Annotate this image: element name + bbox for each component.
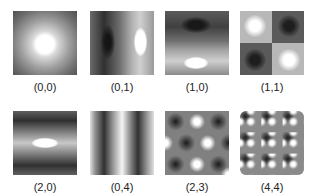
panel-label: (2,3) (165, 181, 229, 193)
mode-image-0-4 (90, 111, 154, 175)
panel-0-0: (0,0) (13, 11, 77, 93)
panel-1-1: (1,1) (240, 11, 304, 93)
panel-0-1: (0,1) (90, 11, 154, 93)
panel-label: (1,0) (165, 81, 229, 93)
mode-image-1-1 (240, 11, 304, 75)
panel-label: (1,1) (240, 81, 304, 93)
mode-image-2-0 (13, 111, 77, 175)
panel-2-3: (2,3) (165, 111, 229, 193)
panel-label: (4,4) (240, 181, 304, 193)
mode-image-1-0 (165, 11, 229, 75)
mode-image-4-4 (240, 111, 304, 175)
panel-label: (0,0) (13, 81, 77, 93)
panel-0-4: (0,4) (90, 111, 154, 193)
mode-image-2-3 (165, 111, 229, 175)
panel-label: (0,1) (90, 81, 154, 93)
mode-image-0-0 (13, 11, 77, 75)
panel-4-4: (4,4) (240, 111, 304, 193)
panel-label: (0,4) (90, 181, 154, 193)
mode-image-0-1 (90, 11, 154, 75)
panel-2-0: (2,0) (13, 111, 77, 193)
panel-1-0: (1,0) (165, 11, 229, 93)
panel-label: (2,0) (13, 181, 77, 193)
